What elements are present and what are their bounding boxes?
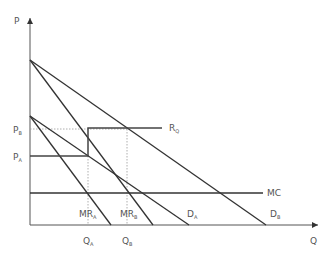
rq-label: RQ <box>169 123 179 134</box>
pb-label: PB <box>13 125 22 136</box>
db-label: DB <box>270 209 281 220</box>
pa-label: PA <box>13 152 22 163</box>
y-axis-label: P <box>14 16 20 26</box>
mrb-curve <box>30 60 153 225</box>
mc-label: MC <box>267 188 281 198</box>
qb-label: QB <box>122 236 133 247</box>
qa-label: QA <box>83 236 94 247</box>
mrb-label: MRB <box>120 209 138 220</box>
db-curve <box>30 60 266 225</box>
mra-curve <box>30 116 111 225</box>
mra-label: MRA <box>79 209 97 220</box>
x-axis-label: Q <box>310 236 317 246</box>
da-curve <box>30 116 189 225</box>
da-label: DA <box>187 209 198 220</box>
price-discrimination-diagram: P Q PB PA QA QB MRA MRB DA DB MC RQ <box>0 0 329 261</box>
